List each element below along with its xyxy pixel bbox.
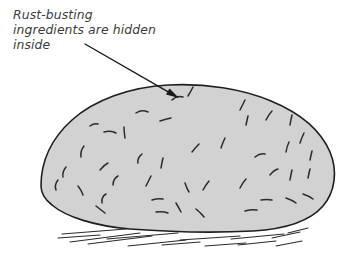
ground-line [62,229,126,234]
texture-mark [261,200,272,201]
ground-line [276,241,302,246]
ground-line [58,235,100,238]
ground-line [88,236,152,244]
ground-line [128,240,186,246]
annotation-label: Rust-busting ingredients are hidden insi… [13,7,163,53]
rock-boulder [41,85,334,232]
ground-line [162,242,200,245]
illustration-canvas: Rust-busting ingredients are hidden insi… [0,0,355,258]
